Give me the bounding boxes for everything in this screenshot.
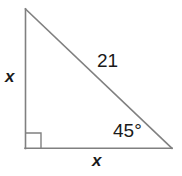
- angle-label: 45°: [113, 121, 142, 140]
- horizontal-leg-label: x: [92, 152, 101, 169]
- geometry-figure: x 21 45° x: [0, 0, 182, 176]
- hypotenuse-line: [26, 9, 173, 148]
- hypotenuse-label: 21: [97, 51, 118, 70]
- vertical-leg-label: x: [5, 68, 14, 85]
- right-angle-marker-icon: [26, 133, 41, 148]
- triangle-drawing: [0, 0, 182, 176]
